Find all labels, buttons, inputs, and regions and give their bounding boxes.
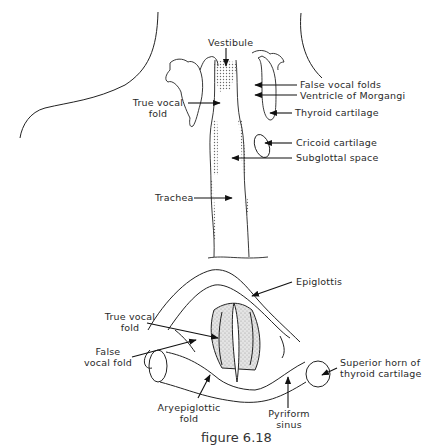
neck-outline bbox=[20, 12, 322, 138]
label-true-vocal-fold-2: True vocal fold bbox=[100, 311, 160, 333]
label-subglottal-space: Subglottal space bbox=[296, 152, 379, 163]
figure-caption: figure 6.18 bbox=[201, 430, 272, 445]
label-line2: sinus bbox=[262, 419, 316, 430]
label-superior-horn: Superior horn of thyroid cartilage bbox=[340, 357, 422, 379]
label-cricoid-cartilage: Cricoid cartilage bbox=[296, 137, 377, 148]
arrow-epiglottis bbox=[252, 282, 292, 296]
label-true-vocal-fold: True vocal fold bbox=[128, 97, 188, 119]
label-line2: thyroid cartilage bbox=[340, 368, 422, 379]
label-pyriform-sinus: Pyriform sinus bbox=[262, 408, 316, 430]
label-line2: fold bbox=[100, 322, 160, 333]
label-aryepiglottic-fold: Aryepiglottic fold bbox=[154, 402, 224, 424]
label-ventricle: Ventricle of Morgangi bbox=[300, 90, 405, 101]
glottis bbox=[211, 303, 260, 382]
label-thyroid-cartilage: Thyroid cartilage bbox=[295, 107, 379, 118]
label-line1: True vocal bbox=[128, 97, 188, 108]
mucosa-stipple bbox=[210, 61, 248, 240]
label-false-vocal-folds: False vocal folds bbox=[300, 79, 381, 90]
label-line2: fold bbox=[154, 413, 224, 424]
label-line2: fold bbox=[128, 108, 188, 119]
label-line1: Aryepiglottic bbox=[154, 402, 224, 413]
label-line1: True vocal bbox=[100, 311, 160, 322]
label-trachea: Trachea bbox=[155, 192, 193, 203]
label-line1: Pyriform bbox=[262, 408, 316, 419]
label-epiglottis: Epiglottis bbox=[296, 276, 342, 287]
label-line2: vocal fold bbox=[80, 357, 136, 368]
label-false-vocal-fold: False vocal fold bbox=[80, 346, 136, 368]
label-line1: False bbox=[80, 346, 136, 357]
arrow-aryepiglottic bbox=[198, 375, 210, 398]
label-vestibule: Vestibule bbox=[208, 37, 253, 48]
label-line1: Superior horn of bbox=[340, 357, 422, 368]
